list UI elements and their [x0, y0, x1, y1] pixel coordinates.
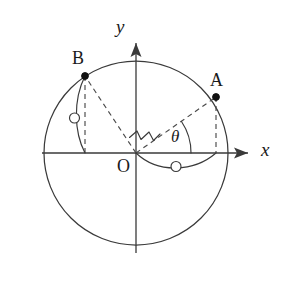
angle-theta-label: θ — [171, 128, 179, 145]
arc-tick-marker-bottom — [171, 162, 181, 172]
segment-O-to-B — [85, 76, 136, 153]
arc-tick-marker-left — [70, 113, 80, 123]
geometry-figure: y x A B O θ — [0, 0, 294, 290]
point-A-label: A — [210, 71, 223, 89]
point-B-label: B — [72, 49, 84, 67]
angle-arc-theta — [182, 122, 192, 154]
origin-label: O — [117, 157, 130, 175]
point-A-dot — [213, 94, 220, 101]
y-axis-label: y — [116, 17, 124, 36]
figure-canvas — [0, 0, 294, 290]
right-angle-marker-icon — [130, 131, 161, 141]
x-axis-label: x — [261, 140, 269, 159]
point-B-dot — [82, 73, 89, 80]
